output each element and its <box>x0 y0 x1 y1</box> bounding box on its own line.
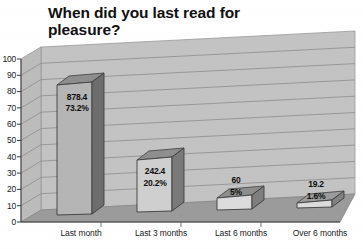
x-label-over-6-months: Over 6 months <box>280 228 360 238</box>
y-tick-label-60: 60 <box>0 119 16 129</box>
y-tick-label-0: 0 <box>0 217 16 227</box>
y-tick-label-40: 40 <box>0 152 16 162</box>
x-label-last-3-months: Last 3 months <box>122 228 200 238</box>
bar-label-last-3-months-percent: 20.2% <box>135 178 175 188</box>
y-axis-ticks <box>17 59 21 222</box>
y-tick-label-30: 30 <box>0 168 16 178</box>
bar-last-6-months-front <box>217 195 252 210</box>
bar-label-over-6-months-count: 19.2 <box>295 179 337 189</box>
y-tick-label-100: 100 <box>0 54 16 64</box>
x-label-last-month: Last month <box>42 228 120 238</box>
x-label-last-6-months: Last 6 months <box>202 228 280 238</box>
bar-label-last-6-months-percent: 5% <box>215 187 257 197</box>
chart-title-line-2: pleasure? <box>48 21 298 38</box>
y-tick-label-20: 20 <box>0 184 16 194</box>
bar-label-last-month-count: 878.4 <box>57 92 97 102</box>
bar-label-over-6-months-percent: 1.6% <box>295 191 337 201</box>
y-tick-label-90: 90 <box>0 70 16 80</box>
x-axis-ticks <box>101 222 261 227</box>
y-tick-label-80: 80 <box>0 86 16 96</box>
bar-label-last-6-months-count: 60 <box>215 175 257 185</box>
y-tick-label-10: 10 <box>0 201 16 211</box>
bar-label-last-3-months-count: 242.4 <box>135 166 175 176</box>
y-tick-label-50: 50 <box>0 135 16 145</box>
y-tick-label-70: 70 <box>0 103 16 113</box>
bar-label-last-month-percent: 73.2% <box>57 103 97 113</box>
chart-title-line-1: When did you last read for <box>48 4 298 21</box>
chart-title: When did you last read for pleasure? <box>48 4 298 38</box>
